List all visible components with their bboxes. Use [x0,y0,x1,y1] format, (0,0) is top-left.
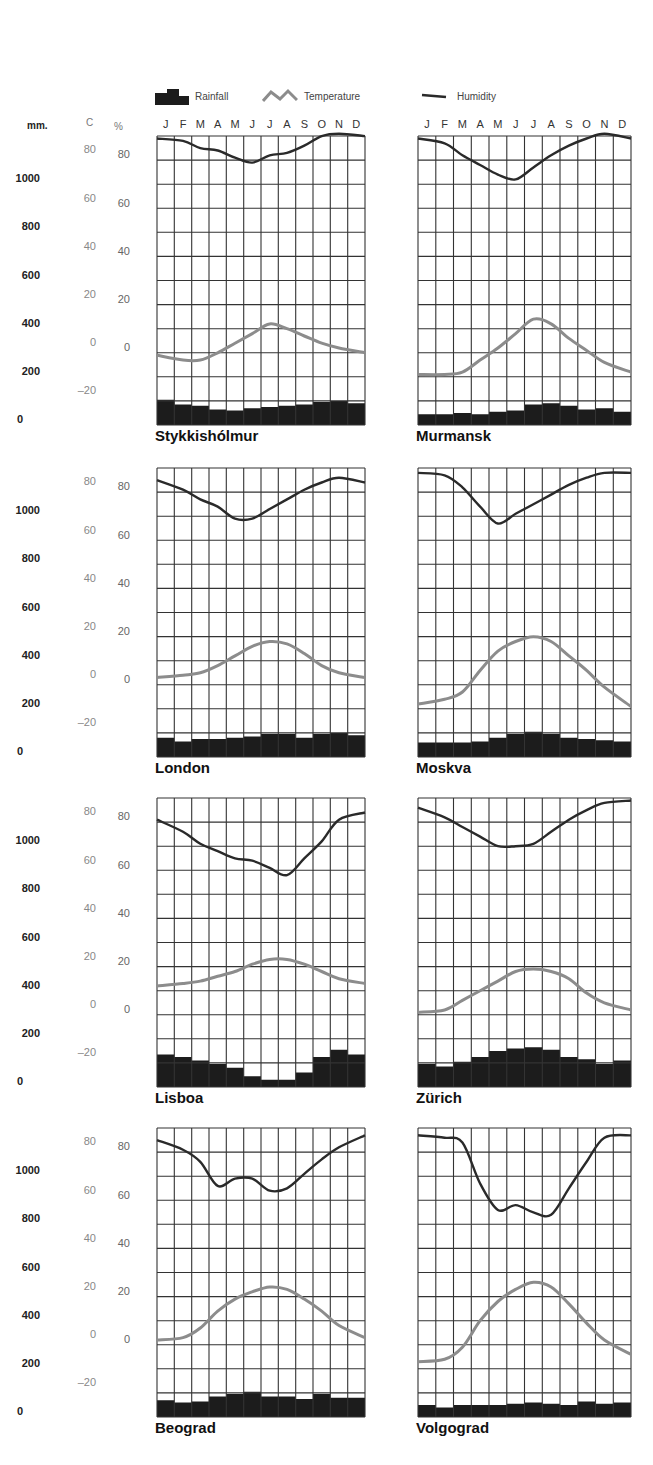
humidity-tick-label: 40 [110,577,130,589]
rainfall-tick-label: 400 [0,317,40,329]
chart-plot [418,1128,631,1417]
month-label: J [507,118,524,130]
month-label: M [489,118,506,130]
chart-grid [418,798,631,1087]
humidity-tick-label: 60 [110,1189,130,1201]
temperature-tick-label: 80 [76,143,96,155]
temperature-tick-label: 60 [76,854,96,866]
month-label: S [296,118,313,130]
temperature-tick-label: 40 [76,1232,96,1244]
month-label: A [279,118,296,130]
climate-chart [418,136,631,425]
temperature-tick-label: 40 [76,902,96,914]
month-label: N [331,118,348,130]
month-label: S [560,118,577,130]
temperature-tick-label: 60 [76,524,96,536]
city-name: Stykkishólmur [155,427,258,444]
month-label: M [192,118,209,130]
chart-plot [157,1128,365,1417]
chart-grid [157,136,365,425]
rainfall-tick-label: 600 [0,1261,40,1273]
chart-plot [418,468,631,757]
rainfall-tick-label: 400 [0,1309,40,1321]
city-name: Beograd [155,1419,216,1436]
rainfall-tick-label: 600 [0,601,40,613]
temperature-tick-label: 0 [76,1328,96,1340]
chart-plot [418,798,631,1087]
temperature-tick-label: 60 [76,192,96,204]
climate-chart [157,468,365,757]
month-label: J [418,118,435,130]
temperature-tick-label: 20 [76,620,96,632]
humidity-tick-label: 0 [110,341,130,353]
temperature-tick-label: –20 [76,384,96,396]
climate-chart [157,798,365,1087]
humidity-tick-label: 80 [110,810,130,822]
city-name: Murmansk [416,427,491,444]
month-label: A [543,118,560,130]
month-label: J [244,118,261,130]
temperature-unit-label: C [86,117,93,128]
city-name: Lisboa [155,1089,203,1106]
climate-chart [418,1128,631,1417]
temperature-tick-label: 40 [76,240,96,252]
rainfall-tick-label: 200 [0,1027,40,1039]
rainfall-tick-label: 600 [0,931,40,943]
chart-grid [418,136,631,425]
rainfall-tick-label: 800 [0,882,40,894]
month-label: M [454,118,471,130]
chart-plot [418,136,631,425]
temperature-zigzag-icon [262,87,298,105]
temperature-tick-label: –20 [76,1046,96,1058]
rainfall-tick-label: 0 [0,1405,40,1417]
month-label: N [596,118,613,130]
month-label: A [209,118,226,130]
rainfall-bar-icon [155,87,189,105]
rainfall-unit-label: mm. [27,120,48,131]
temperature-tick-label: 40 [76,572,96,584]
humidity-tick-label: 0 [110,673,130,685]
humidity-tick-label: 60 [110,197,130,209]
humidity-tick-label: 60 [110,529,130,541]
humidity-tick-label: 20 [110,955,130,967]
temperature-tick-label: –20 [76,1376,96,1388]
humidity-tick-label: 80 [110,148,130,160]
legend-temperature: Temperature [262,86,360,106]
legend-rainfall: Rainfall [155,86,228,106]
chart-plot [157,136,365,425]
chart-grid [418,1128,631,1417]
temperature-tick-label: 0 [76,668,96,680]
legend-humidity: Humidity [421,86,496,106]
climate-chart [157,1128,365,1417]
humidity-tick-label: 0 [110,1333,130,1345]
rainfall-tick-label: 0 [0,413,40,425]
temperature-tick-label: –20 [76,716,96,728]
humidity-tick-label: 80 [110,480,130,492]
humidity-tick-label: 40 [110,907,130,919]
city-name: Moskva [416,759,471,776]
chart-plot [157,798,365,1087]
rainfall-tick-label: 1000 [0,1164,40,1176]
rainfall-tick-label: 400 [0,649,40,661]
rainfall-tick-label: 600 [0,269,40,281]
climate-chart [418,468,631,757]
chart-grid [157,798,365,1087]
chart-grid [418,468,631,757]
humidity-unit-label: % [114,121,123,132]
city-name: Volgograd [416,1419,489,1436]
humidity-tick-label: 0 [110,1003,130,1015]
city-name: London [155,759,210,776]
legend-temperature-label: Temperature [304,91,360,102]
rainfall-tick-label: 200 [0,1357,40,1369]
rainfall-tick-label: 800 [0,1212,40,1224]
chart-plot [157,468,365,757]
month-label: F [436,118,453,130]
month-label: O [313,118,330,130]
temperature-tick-label: 20 [76,1280,96,1292]
humidity-tick-label: 80 [110,1140,130,1152]
climate-chart [418,798,631,1087]
rainfall-tick-label: 0 [0,745,40,757]
city-name: Zürich [416,1089,462,1106]
month-label: M [227,118,244,130]
temperature-tick-label: 20 [76,950,96,962]
